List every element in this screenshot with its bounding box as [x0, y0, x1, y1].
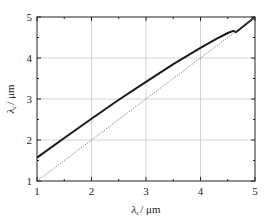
x-axis-label: λc/ μm [130, 203, 161, 217]
x-tick-label: 3 [143, 185, 149, 197]
y-tick-label: 2 [27, 134, 33, 146]
y-tick-label: 5 [27, 11, 33, 23]
x-tick-label: 2 [89, 185, 95, 197]
y-axis-label: λc/ μm [4, 84, 18, 115]
line-chart: 1234512345 λc/ μm λc/ μm [0, 0, 270, 222]
y-tick-label: 4 [27, 52, 33, 64]
x-tick-label: 4 [198, 185, 204, 197]
y-tick-label: 3 [27, 93, 33, 105]
axis-ticks: 1234512345 [27, 11, 259, 197]
y-tick-label: 1 [27, 175, 33, 187]
x-tick-label: 5 [252, 185, 258, 197]
x-tick-label: 1 [34, 185, 40, 197]
